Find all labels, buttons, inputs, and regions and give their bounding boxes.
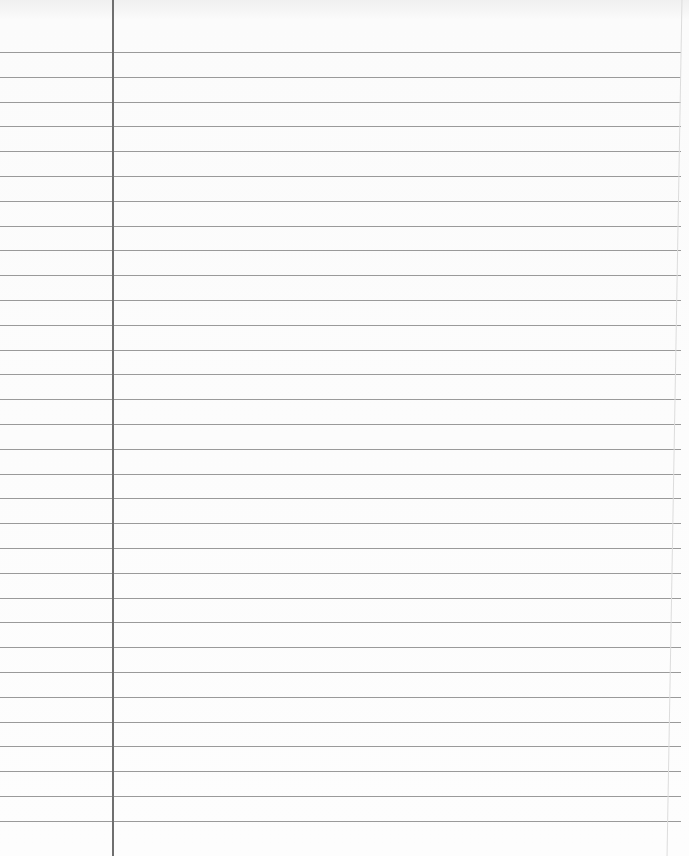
ruled-line: [0, 126, 681, 127]
ruled-line: [0, 77, 681, 78]
ruled-line: [0, 548, 681, 549]
ruled-line: [0, 102, 681, 103]
ruled-line: [0, 449, 681, 450]
ruled-line: [0, 622, 681, 623]
ruled-line: [0, 52, 681, 53]
ruled-line: [0, 374, 681, 375]
ruled-line: [0, 746, 681, 747]
ruled-line: [0, 573, 681, 574]
ruled-line: [0, 275, 681, 276]
ruled-line: [0, 424, 681, 425]
ruled-line: [0, 821, 681, 822]
ruled-line: [0, 647, 681, 648]
ruled-line: [0, 325, 681, 326]
ruled-line: [0, 722, 681, 723]
ruled-line: [0, 176, 681, 177]
ruled-line: [0, 697, 681, 698]
ruled-line: [0, 523, 681, 524]
ruled-line: [0, 498, 681, 499]
ruled-line: [0, 201, 681, 202]
ruled-line: [0, 350, 681, 351]
ruled-line: [0, 771, 681, 772]
ruled-line: [0, 474, 681, 475]
ruled-line: [0, 300, 681, 301]
ruled-line: [0, 399, 681, 400]
ruled-line: [0, 598, 681, 599]
ruled-line: [0, 250, 681, 251]
ruled-line: [0, 796, 681, 797]
lined-paper: [0, 0, 689, 856]
ruled-line: [0, 226, 681, 227]
ruled-line: [0, 672, 681, 673]
ruled-line: [0, 151, 681, 152]
margin-line: [112, 0, 114, 856]
paper-edge: [667, 0, 683, 856]
